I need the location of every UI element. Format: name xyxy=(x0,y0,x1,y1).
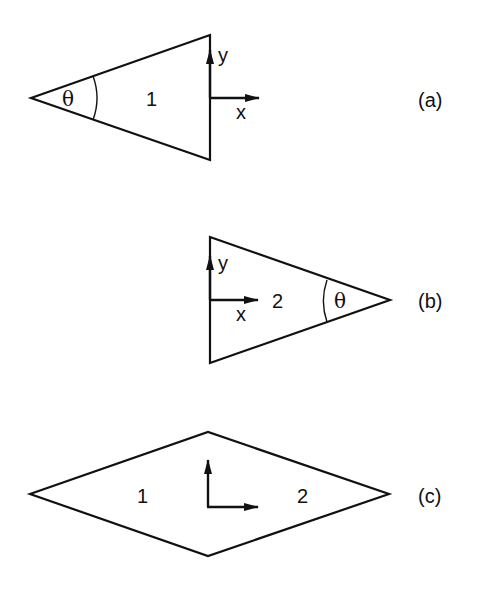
panel-a: θ 1 y x (a) xyxy=(31,35,442,160)
region-label: 2 xyxy=(272,290,283,312)
angle-arc-icon xyxy=(323,280,327,322)
angle-label: θ xyxy=(334,289,346,313)
panel-caption: (c) xyxy=(418,485,441,507)
panel-c: 1 2 (c) xyxy=(30,432,441,556)
region-label: 1 xyxy=(146,88,157,110)
panel-caption: (a) xyxy=(418,89,442,111)
x-axis-label: x xyxy=(236,303,246,325)
region-label-left: 1 xyxy=(137,485,148,507)
angle-arc-icon xyxy=(93,76,97,120)
angle-label: θ xyxy=(62,87,74,111)
y-axis-label: y xyxy=(218,252,228,274)
panel-b: θ 2 y x (b) xyxy=(210,237,442,363)
diagram-canvas: θ 1 y x (a) θ 2 y x (b) 1 2 (c) xyxy=(0,0,488,592)
panel-caption: (b) xyxy=(418,290,442,312)
triangle-1 xyxy=(31,35,210,160)
y-axis-label: y xyxy=(218,44,228,66)
x-axis-label: x xyxy=(236,101,246,123)
region-label-right: 2 xyxy=(297,485,308,507)
rhombus xyxy=(30,432,389,556)
